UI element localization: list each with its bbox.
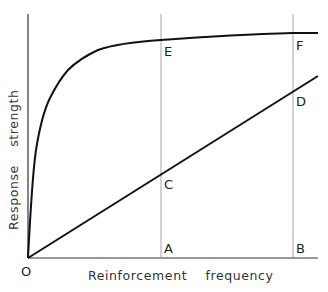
label-e: E: [164, 44, 172, 59]
label-c: C: [164, 177, 173, 192]
x-axis-label: Reinforcement frequency: [88, 268, 274, 283]
label-f: F: [296, 38, 303, 53]
response-strength-diagram: E F D C A B O Reinforcement frequency Re…: [0, 0, 328, 292]
y-axis-label: Response strength: [6, 89, 21, 230]
hyperbolic-curve: [28, 33, 318, 258]
label-b: B: [296, 241, 305, 256]
label-a: A: [164, 241, 173, 256]
label-origin: O: [21, 264, 31, 279]
label-d: D: [296, 94, 306, 109]
linear-line: [28, 76, 318, 258]
